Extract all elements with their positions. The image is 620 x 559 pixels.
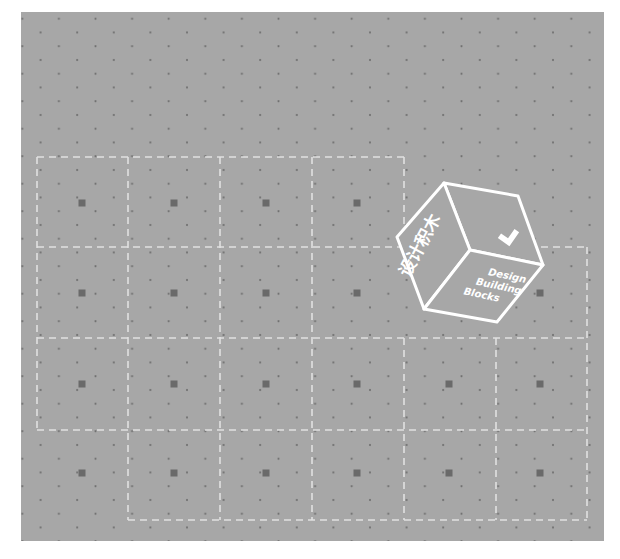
module-square: [79, 200, 86, 207]
module-square: [171, 470, 178, 477]
module-square: [354, 470, 361, 477]
module-square: [537, 470, 544, 477]
module-square: [171, 290, 178, 297]
module-square: [171, 381, 178, 388]
module-square: [263, 290, 270, 297]
module-square: [263, 200, 270, 207]
module-square: [354, 290, 361, 297]
module-square: [79, 470, 86, 477]
module-square: [263, 381, 270, 388]
module-square: [446, 381, 453, 388]
module-square: [79, 381, 86, 388]
module-square: [537, 290, 544, 297]
module-square: [354, 200, 361, 207]
module-square: [171, 200, 178, 207]
module-square: [446, 470, 453, 477]
module-square: [354, 381, 361, 388]
module-square: [79, 290, 86, 297]
module-square: [537, 381, 544, 388]
design-blocks-artwork: 设计积木 Design Building Blocks: [0, 0, 620, 559]
module-square: [263, 470, 270, 477]
